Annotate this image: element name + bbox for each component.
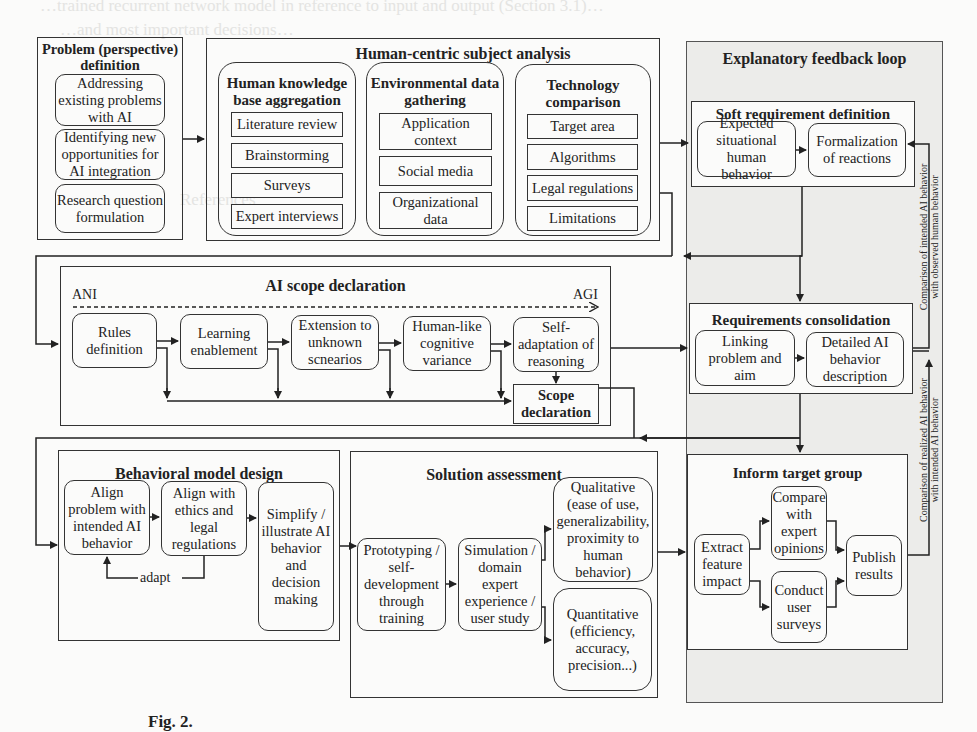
step-extension-unknown: Extension to unknown scnearios (291, 315, 379, 370)
side-label-upper-line1: Comparison of intended AI behavior (918, 147, 929, 327)
item-legal-regulations: Legal regulations (527, 175, 638, 201)
side-label-upper-line2: with observed human behavior (929, 147, 940, 327)
figure-caption: Fig. 2. (148, 712, 193, 732)
align-ethics-legal: Align with ethics and legal regulations (161, 481, 247, 556)
ghost-text-line1: …trained recurrent network model in refe… (40, 0, 604, 16)
publish-results: Publish results (846, 535, 902, 596)
knowledge-aggregation-title: Human knowledge base aggregation (219, 75, 355, 109)
problem-item-research-question: Research question formulation (55, 184, 165, 233)
conduct-user-surveys: Conduct user surveys (771, 571, 827, 643)
expected-human-behavior: Expected situational human behavior (697, 121, 796, 177)
agi-label: AGI (573, 287, 598, 303)
side-label-upper: Comparison of intended AI behavior with … (918, 147, 940, 327)
step-rules-definition: Rules definition (72, 313, 157, 368)
prototyping: Prototyping / self-development through t… (357, 538, 446, 631)
requirements-consolidation-title: Requirements consolidation (690, 312, 912, 329)
problem-item-addressing: Addressing existing problems with AI (55, 74, 165, 126)
problem-item-identifying: Identifying new opportunities for AI int… (55, 129, 165, 180)
item-literature-review: Literature review (231, 112, 343, 137)
problem-definition-title: Problem (perspective) definition (38, 41, 182, 73)
item-organizational-data: Organizational data (379, 192, 492, 229)
adapt-label: adapt (139, 570, 171, 586)
subject-analysis-title: Human-centric subject analysis (207, 45, 659, 62)
detailed-ai-behavior: Detailed AI behavior description (806, 332, 904, 387)
side-label-lower-line1: Comparison of realized AI behavior (918, 360, 929, 540)
extract-feature-impact: Extract feature impact (694, 534, 750, 595)
formalization-of-reactions: Formalization of reactions (808, 123, 906, 177)
compare-expert-opinions: Compare with expert opinions (771, 486, 827, 560)
simplify-illustrate: Simplify / illustrate AI behavior and de… (258, 482, 334, 631)
item-target-area: Target area (527, 114, 638, 139)
simulation-study: Simulation / domain expert experience / … (458, 538, 542, 631)
step-self-adaptation: Self-adaptation of reasoning (513, 317, 599, 372)
qualitative-outcome: Qualitative (ease of use, generalizabili… (553, 477, 653, 582)
ai-scope-title: AI scope declaration (61, 277, 610, 294)
item-expert-interviews: Expert interviews (231, 204, 343, 229)
item-algorithms: Algorithms (527, 144, 638, 170)
step-learning-enablement: Learning enablement (180, 314, 268, 369)
linking-problem-aim: Linking problem and aim (695, 330, 795, 386)
align-problem-intended: Align problem with intended AI behavior (64, 480, 150, 555)
side-label-lower: Comparison of realized AI behavior with … (918, 360, 940, 540)
environmental-data-title: Environmental data gathering (367, 75, 503, 109)
step-human-like-variance: Human-like cognitive variance (403, 316, 491, 371)
quantitative-outcome: Quantitative (efficiency, accuracy, prec… (553, 588, 652, 691)
ani-label: ANI (72, 287, 97, 303)
item-social-media: Social media (379, 156, 492, 186)
item-limitations: Limitations (527, 206, 638, 231)
feedback-loop-title: Explanatory feedback loop (687, 50, 942, 67)
side-label-lower-line2: with intended AI behavior (929, 360, 940, 540)
item-application-context: Application context (379, 113, 492, 150)
item-brainstorming: Brainstorming (231, 143, 343, 168)
item-surveys: Surveys (231, 173, 343, 198)
scope-declaration: Scope declaration (513, 384, 599, 424)
technology-comparison-title: Technology comparison (516, 77, 650, 111)
inform-target-group-title: Inform target group (688, 465, 907, 482)
